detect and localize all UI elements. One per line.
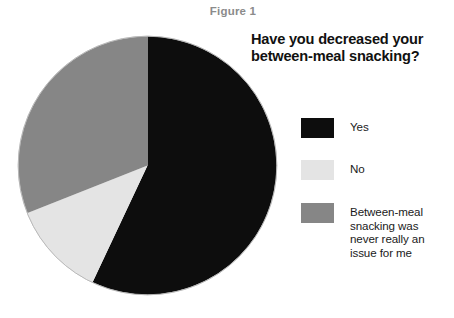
legend-label-never-line-1: Between-meal — [350, 205, 454, 219]
question-line-2: between-meal snacking? — [251, 48, 454, 65]
question-line-1: Have you decreased your — [251, 31, 423, 47]
legend-label-never-line-3: never really an — [350, 232, 454, 246]
legend-swatch-yes — [301, 118, 334, 138]
legend-swatch-no — [301, 160, 334, 180]
pie-chart — [17, 35, 278, 296]
pie-chart-svg — [17, 35, 278, 296]
legend-label-no-line-1: No — [350, 162, 454, 176]
chart-question-title: Have you decreased your between-meal sna… — [251, 31, 454, 65]
figure-page: Figure 1 Have you decreased your between… — [0, 0, 454, 318]
figure-label: Figure 1 — [178, 5, 288, 17]
legend-label-never-an-issue: Between-meal snacking was never really a… — [350, 205, 454, 259]
legend-label-never-line-2: snacking was — [350, 219, 454, 233]
legend-swatch-never — [301, 203, 334, 223]
page-edge-artifact-text — [4, 0, 62, 4]
legend-label-never-line-4: issue for me — [350, 246, 454, 260]
legend-label-yes-line-1: Yes — [350, 120, 454, 134]
legend-label-yes: Yes — [350, 120, 454, 134]
legend-label-no: No — [350, 162, 454, 176]
